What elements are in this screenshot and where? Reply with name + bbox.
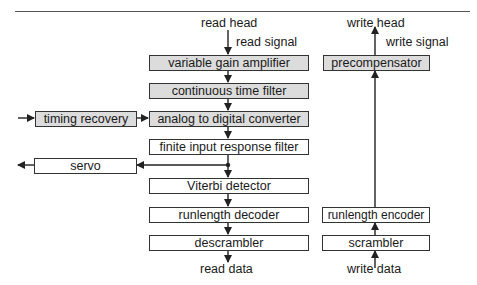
block-runlength-encoder: runlength encoder [322,207,430,223]
block-descrambler: descrambler [149,235,309,251]
write-signal-label: write signal [386,35,449,49]
read-data-label: read data [200,262,253,276]
block-analog-to-digital-converter: analog to digital converter [149,111,309,127]
block-viterbi-detector: Viterbi detector [149,178,309,194]
write-head-label: write head [347,16,405,30]
block-timing-recovery: timing recovery [35,111,137,127]
block-scrambler: scrambler [322,235,430,251]
write-data-label: write data [347,262,401,276]
block-fir-filter: finite input response filter [149,139,309,155]
block-runlength-decoder: runlength decoder [149,207,309,223]
block-servo: servo [34,158,137,174]
read-head-label: read head [201,16,257,30]
block-continuous-time-filter: continuous time filter [149,83,309,99]
block-precompensator: precompensator [323,55,430,71]
block-variable-gain-amplifier: variable gain amplifier [149,55,309,71]
read-signal-label: read signal [236,35,297,49]
